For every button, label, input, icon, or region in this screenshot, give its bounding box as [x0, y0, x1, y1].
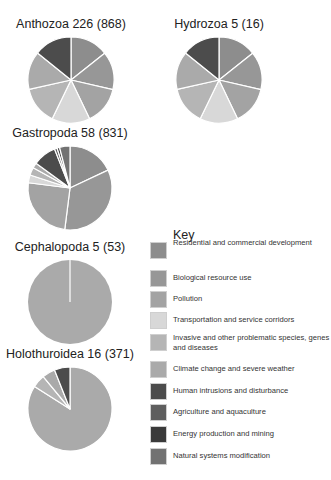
legend-swatch: [150, 242, 167, 259]
legend-label: Invasive and other problematic species, …: [173, 333, 331, 353]
legend-label: Transportation and service corridors: [173, 315, 331, 325]
legend-swatch: [150, 334, 167, 351]
pie-svg: [26, 35, 116, 125]
pie-title: Hydrozoa 5 (16): [174, 17, 264, 31]
pie-title: Anthozoa 226 (868): [16, 17, 126, 31]
pie-slice: [28, 183, 70, 230]
legend-label: Human intrusions and disturbance: [173, 386, 331, 396]
pie-title: Cephalopoda 5 (53): [15, 240, 126, 254]
legend-label: Energy production and mining: [173, 429, 331, 439]
legend-swatch: [150, 448, 167, 465]
legend-swatch: [150, 404, 167, 421]
pie-svg: [26, 258, 114, 346]
legend-label: Biological resource use: [173, 273, 331, 283]
legend-label: Climate change and severe weather: [173, 364, 331, 374]
legend-swatch: [150, 270, 167, 287]
legend-label: Pollution: [173, 294, 331, 304]
legend-swatch: [150, 291, 167, 308]
pie-title: Holothuroidea 16 (371): [6, 347, 134, 361]
pie-svg: [174, 35, 264, 125]
legend-swatch: [150, 312, 167, 329]
pie-title: Gastropoda 58 (831): [12, 126, 127, 140]
legend-swatch: [150, 426, 167, 443]
legend-label: Residential and commercial development: [173, 238, 331, 248]
legend-swatch: [150, 383, 167, 400]
legend-swatch: [150, 361, 167, 378]
legend-label: Agriculture and aquaculture: [173, 407, 331, 417]
legend-label: Natural systems modification: [173, 451, 331, 461]
pie-svg: [26, 144, 114, 232]
pie-svg: [26, 365, 114, 453]
